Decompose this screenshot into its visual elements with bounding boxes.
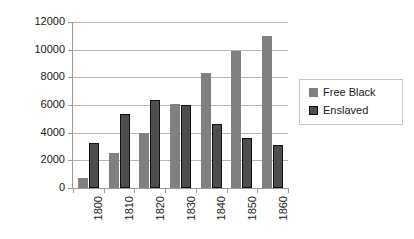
gridline-10000 — [73, 50, 288, 51]
bar-1860-enslaved — [273, 145, 283, 188]
x-tick-label-1850: 1850 — [247, 196, 258, 220]
gridline-8000 — [73, 77, 288, 78]
y-tick-label: 0 — [5, 182, 65, 193]
x-tick-label-1840: 1840 — [216, 196, 227, 220]
x-tick-mark — [134, 188, 135, 193]
bar-chart: 020004000600080001000012000 180018101820… — [0, 0, 414, 239]
bar-1800-enslaved — [89, 143, 99, 188]
x-tick-mark — [73, 188, 74, 193]
x-tick-mark — [257, 188, 258, 193]
y-tick-label: 12000 — [5, 16, 65, 27]
bar-1820-free-black — [139, 133, 149, 188]
bar-1850-free-black — [231, 51, 241, 188]
bar-1810-enslaved — [120, 114, 130, 188]
x-tick-label-1820: 1820 — [155, 196, 166, 220]
x-tick-label-1860: 1860 — [278, 196, 289, 220]
legend-item-free-black: Free Black — [309, 87, 376, 98]
bar-1850-enslaved — [242, 138, 252, 188]
y-tick-label: 10000 — [5, 44, 65, 55]
x-tick-mark — [227, 188, 228, 193]
x-tick-mark — [196, 188, 197, 193]
gridline-0 — [73, 188, 288, 189]
x-tick-label-1800: 1800 — [93, 196, 104, 220]
bar-1840-free-black — [201, 73, 211, 188]
legend-swatch-icon — [309, 106, 318, 115]
plot-area — [73, 22, 288, 188]
gridline-12000 — [73, 22, 288, 23]
legend-label: Free Black — [323, 87, 376, 98]
bar-1830-free-black — [170, 104, 180, 188]
legend-label: Enslaved — [323, 105, 368, 116]
legend: Free BlackEnslaved — [299, 79, 403, 125]
bar-1830-enslaved — [181, 105, 191, 188]
x-tick-mark — [104, 188, 105, 193]
y-tick-label: 4000 — [5, 127, 65, 138]
x-tick-mark — [288, 188, 289, 193]
bar-1840-enslaved — [212, 124, 222, 188]
legend-item-enslaved: Enslaved — [309, 105, 368, 116]
y-tick-label: 2000 — [5, 154, 65, 165]
bar-1820-enslaved — [150, 100, 160, 188]
x-tick-label-1830: 1830 — [186, 196, 197, 220]
bar-1860-free-black — [262, 36, 272, 188]
y-tick-label: 6000 — [5, 99, 65, 110]
bar-1800-free-black — [78, 178, 88, 188]
legend-swatch-icon — [309, 88, 318, 97]
x-tick-label-1810: 1810 — [124, 196, 135, 220]
bar-1810-free-black — [109, 153, 119, 188]
x-tick-mark — [165, 188, 166, 193]
y-tick-label: 8000 — [5, 71, 65, 82]
